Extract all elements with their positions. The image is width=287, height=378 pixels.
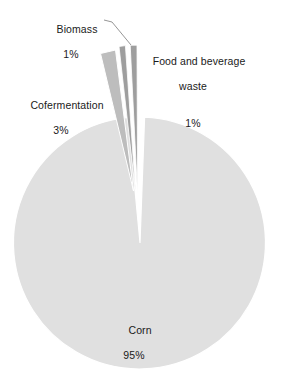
slice-label-biomass-percent: 1%: [34, 48, 108, 61]
slice-label-cofermentation: Cofermentation 3%: [6, 86, 116, 161]
slice-label-food-and-beverage-waste-line2: waste: [140, 80, 246, 93]
slice-label-food-and-beverage-waste-line1: Food and beverage: [153, 55, 246, 67]
slice-label-biomass-name: Biomass: [57, 23, 98, 35]
biomass-leader-line: [104, 20, 131, 45]
slice-label-biomass: Biomass 1%: [34, 10, 108, 85]
slice-label-corn-percent: 95%: [100, 349, 168, 362]
slice-label-corn-name: Corn: [128, 324, 151, 336]
slice-label-cofermentation-percent: 3%: [6, 124, 116, 137]
slice-label-food-and-beverage-waste-percent: 1%: [140, 117, 246, 130]
slice-label-food-and-beverage-waste: Food and beverage waste 1%: [140, 42, 246, 155]
pie-chart: Biomass 1% Food and beverage waste 1% Co…: [0, 0, 287, 378]
slice-label-cofermentation-name: Cofermentation: [30, 99, 103, 111]
slice-label-corn: Corn 95%: [100, 311, 168, 378]
